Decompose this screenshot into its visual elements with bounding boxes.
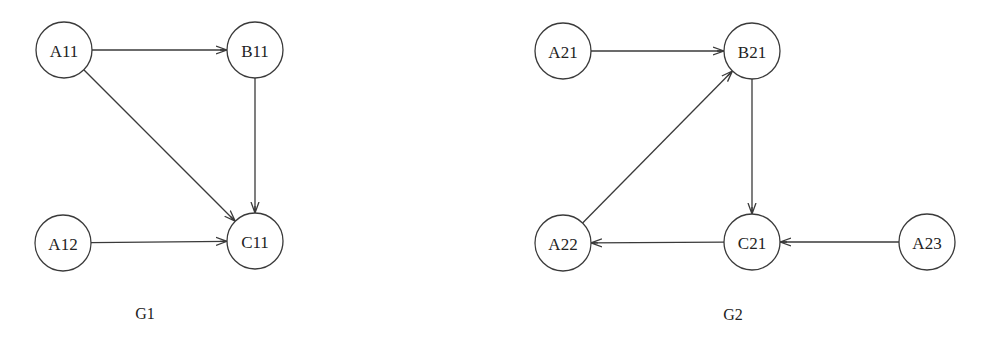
nodes-layer: A11B11A12C11A21B21A22C21A23 [35, 22, 955, 271]
graph-g2-nodes: A21B21A22C21A23 [535, 23, 955, 271]
edges-layer [84, 50, 899, 243]
node-label: C21 [738, 234, 766, 253]
edge-a22-to-b21 [583, 71, 733, 223]
diagram-canvas: A11B11A12C11A21B21A22C21A23 G1G2 [0, 0, 985, 346]
graph-g1-edges [84, 50, 255, 243]
node-b11: B11 [227, 22, 283, 78]
node-label: A21 [548, 43, 577, 62]
node-a21: A21 [535, 23, 591, 79]
node-label: B21 [738, 43, 766, 62]
node-label: A12 [48, 235, 77, 254]
node-label: A11 [50, 42, 79, 61]
edge-a11-to-c11 [84, 70, 235, 221]
graph-caption-g2: G2 [723, 306, 743, 323]
node-c11: C11 [227, 213, 283, 269]
node-label: A22 [548, 235, 577, 254]
node-label: A23 [912, 234, 941, 253]
graph-caption-g1: G1 [135, 305, 155, 322]
node-label: B11 [241, 42, 269, 61]
graph-g2-edges [583, 51, 899, 243]
node-c21: C21 [724, 214, 780, 270]
node-label: C11 [241, 233, 269, 252]
edge-c21-to-a22 [591, 242, 724, 243]
graph-g1-nodes: A11B11A12C11 [35, 22, 283, 271]
node-b21: B21 [724, 23, 780, 79]
node-a12: A12 [35, 215, 91, 271]
node-a22: A22 [535, 215, 591, 271]
captions-layer: G1G2 [135, 305, 743, 323]
edge-a12-to-c11 [91, 241, 227, 242]
node-a23: A23 [899, 214, 955, 270]
node-a11: A11 [36, 22, 92, 78]
